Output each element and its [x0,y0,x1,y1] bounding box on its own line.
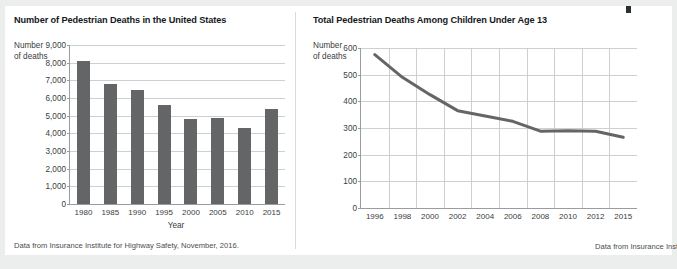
line-chart-x-tick-label: 2012 [587,212,605,221]
bar-chart-x-tick-label: 2000 [182,208,200,217]
line-chart-y-tick-label: 500 [343,70,357,79]
bar-chart-bar [158,105,171,204]
line-chart-y-axis-label-line1: Number [313,41,347,52]
line-chart-plot-area: 0100200300400500600199619982000200220042… [360,48,637,209]
bar-chart-gridline [70,63,285,64]
bar-chart-y-axis-label-line1: Number [14,41,48,52]
bar-chart-x-tick-label: 1980 [75,208,93,217]
line-chart-y-tick-label: 100 [343,177,357,186]
bar-chart-y-tick-label: 6,000 [46,94,67,103]
line-chart-series-layer [361,48,637,208]
bar-chart-y-tick-label: 1,000 [46,182,67,191]
line-chart-x-tick-label: 2008 [531,212,549,221]
line-chart-source-note: Data from Insurance Institute for Highwa… [595,242,677,251]
line-chart-y-tick-label: 400 [343,97,357,106]
bar-chart-gridline [70,116,285,117]
bar-chart-y-tick-label: 4,000 [46,129,67,138]
bar-chart-y-tick-label: 8,000 [46,58,67,67]
bar-chart-x-tick-label: 1990 [128,208,146,217]
line-chart-series-line [375,55,623,138]
bar-chart-plot-area: 01,0002,0003,0004,0005,0006,0007,0008,00… [69,45,285,205]
bar-chart-panel: Number of Pedestrian Deaths in the Unite… [5,6,295,255]
bar-chart-x-tick-label: 2010 [236,208,254,217]
bar-chart-y-tick-label: 0 [61,200,66,209]
line-chart-x-tick-label: 2002 [449,212,467,221]
line-chart-y-axis-label: Number of deaths [313,41,347,62]
bar-chart-gridline [70,133,285,134]
bar-chart-y-tick-label: 3,000 [46,147,67,156]
bar-chart-gridline [70,45,285,46]
bar-chart-y-tick-mark [67,45,70,46]
line-chart-x-tick-label: 2006 [504,212,522,221]
line-chart-y-tick-label: 0 [352,204,357,213]
bar-chart-y-axis-label-line2: of deaths [14,52,48,63]
line-chart-x-tick-label: 2010 [559,212,577,221]
line-chart-y-tick-label: 300 [343,124,357,133]
bar-chart-title: Number of Pedestrian Deaths in the Unite… [14,15,226,25]
bar-chart-y-tick-mark [67,116,70,117]
figure-card: Number of Pedestrian Deaths in the Unite… [5,6,672,255]
bar-chart-bar [131,90,144,204]
line-chart-x-tick-label: 2000 [421,212,439,221]
bar-chart-y-tick-mark [67,151,70,152]
panel-divider [295,12,296,249]
bar-chart-gridline [70,151,285,152]
bar-chart-y-tick-mark [67,133,70,134]
bar-chart-source-note: Data from Insurance Institute for Highwa… [14,241,239,250]
bar-chart-y-tick-label: 2,000 [46,164,67,173]
corner-mark-icon [626,6,631,13]
line-chart-x-tick-label: 1998 [393,212,411,221]
bar-chart-bar [104,84,117,204]
bar-chart-bar [265,109,278,204]
line-chart-x-tick-label: 1996 [366,212,384,221]
bar-chart-x-tick-label: 2015 [263,208,281,217]
bar-chart-gridline [70,169,285,170]
bar-chart-y-tick-mark [67,63,70,64]
bar-chart-y-axis-label: Number of deaths [14,41,48,62]
bar-chart-gridline [70,98,285,99]
bar-chart-bar [238,128,251,204]
line-chart-x-tick-label: 2015 [614,212,632,221]
bar-chart-gridline [70,80,285,81]
bar-chart-y-tick-label: 5,000 [46,111,67,120]
line-chart-y-tick-mark [358,208,361,209]
bar-chart-y-tick-mark [67,98,70,99]
bar-chart-x-tick-label: 2005 [209,208,227,217]
bar-chart-y-tick-mark [67,169,70,170]
bar-chart-x-tick-label: 1995 [155,208,173,217]
bar-chart-y-tick-mark [67,204,70,205]
line-chart-y-tick-label: 200 [343,150,357,159]
line-chart-y-tick-label: 600 [343,44,357,53]
bar-chart-y-tick-label: 7,000 [46,76,67,85]
bar-chart-bar [184,119,197,204]
bar-chart-y-tick-mark [67,186,70,187]
line-chart-y-axis-label-line2: of deaths [313,52,347,63]
bar-chart-gridline [70,186,285,187]
line-chart-x-tick-label: 2004 [476,212,494,221]
line-chart-title: Total Pedestrian Deaths Among Children U… [313,15,547,25]
bar-chart-x-tick-label: 1985 [101,208,119,217]
bar-chart-bar [77,61,90,204]
bar-chart-bar [211,118,224,204]
bar-chart-y-tick-label: 9,000 [46,41,67,50]
bar-chart-y-tick-mark [67,80,70,81]
figure-page: Number of Pedestrian Deaths in the Unite… [0,0,677,269]
bar-chart-x-axis-label: Year [168,221,185,230]
